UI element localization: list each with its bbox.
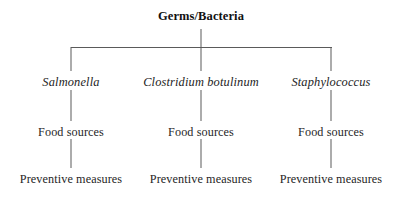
species-node-staphylococcus: Staphylococcus [291,76,370,88]
food-sources-node-2: Food sources [168,126,234,138]
connector-branch-1-drop [71,47,72,71]
food-sources-node-1: Food sources [38,126,104,138]
connector-branch-2-drop [201,47,202,71]
preventive-measures-node-3: Preventive measures [280,173,382,185]
preventive-measures-node-1: Preventive measures [20,173,122,185]
connector-food-to-prevent-3 [331,139,332,168]
connector-branch-3-drop [331,47,332,71]
connector-species-to-food-2 [201,90,202,121]
diagram-canvas: Germs/Bacteria Salmonella Clostridium bo… [0,0,402,197]
connector-food-to-prevent-1 [71,139,72,168]
food-sources-node-3: Food sources [298,126,364,138]
connector-bus-bar [71,47,332,48]
connector-food-to-prevent-2 [201,139,202,168]
root-node-germs-bacteria: Germs/Bacteria [158,10,244,23]
connector-species-to-food-3 [331,90,332,121]
species-node-clostridium-botulinum: Clostridium botulinum [143,76,259,88]
connector-root-stem [201,29,202,48]
species-node-salmonella: Salmonella [42,76,99,88]
preventive-measures-node-2: Preventive measures [150,173,252,185]
connector-species-to-food-1 [71,90,72,121]
connector-layer [0,0,402,197]
